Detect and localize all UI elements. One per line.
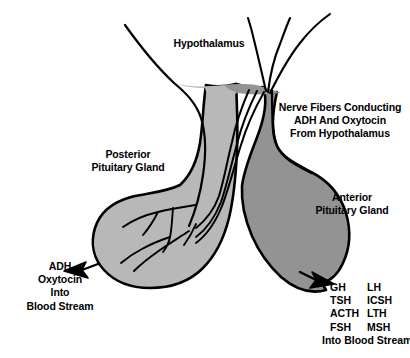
nerve-fiber-strand-1 bbox=[248, 18, 266, 91]
label-anterior-hormones: GH LH TSH ICSH ACTH LTH FSH MSH Into Blo… bbox=[326, 281, 410, 347]
hormone-acth: ACTH bbox=[330, 307, 367, 320]
hormone-list-footer: Into Blood Stream bbox=[322, 334, 406, 347]
pituitary-diagram-figure: Hypothalamus Nerve Fibers Conducting ADH… bbox=[0, 0, 410, 358]
nerve-fiber-strand-3 bbox=[270, 14, 330, 93]
hormone-lth: LTH bbox=[367, 307, 410, 320]
label-posterior-pituitary: Posterior Pituitary Gland bbox=[76, 148, 180, 174]
hormone-msh: MSH bbox=[367, 321, 410, 334]
hormone-tsh: TSH bbox=[330, 294, 367, 307]
label-anterior-pituitary: Anterior Pituitary Gland bbox=[300, 191, 404, 217]
label-hypothalamus: Hypothalamus bbox=[163, 37, 255, 50]
hormone-list-grid: GH LH TSH ICSH ACTH LTH FSH MSH bbox=[326, 281, 410, 334]
nerve-fiber-strand-2 bbox=[268, 18, 290, 92]
hormone-lh: LH bbox=[367, 281, 410, 294]
label-nerve-fibers: Nerve Fibers Conducting ADH And Oxytocin… bbox=[272, 101, 408, 141]
label-posterior-output: ADH Oxytocin Into Blood Stream bbox=[8, 260, 112, 313]
hormone-gh: GH bbox=[330, 281, 367, 294]
hormone-icsh: ICSH bbox=[367, 294, 410, 307]
hormone-fsh: FSH bbox=[330, 321, 367, 334]
